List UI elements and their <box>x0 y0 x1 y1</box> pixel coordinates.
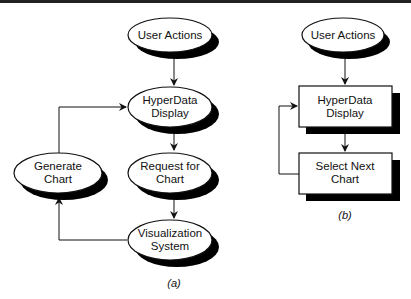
node-request-for-chart: Request for Chart <box>128 153 219 200</box>
node-user-actions: User Actions <box>302 18 390 59</box>
diagram-b: User Actions HyperData Display Select Ne… <box>279 18 400 221</box>
node-user-actions: User Actions <box>128 18 219 59</box>
flow-diagrams: User Actions HyperData Display Request f… <box>0 0 411 299</box>
node-label-line1: Request for <box>140 160 200 172</box>
edge-generate-to-hyperdata <box>59 107 126 153</box>
edge-select-to-hyperdata <box>279 106 299 174</box>
node-label-line1: Select Next <box>316 160 376 172</box>
node-label-line2: Chart <box>44 173 73 185</box>
node-label-line2: Display <box>326 107 364 119</box>
node-label-line2: System <box>151 240 189 252</box>
node-visualization-system: Visualization System <box>128 220 219 267</box>
caption-a: (a) <box>167 277 181 289</box>
node-label: User Actions <box>311 29 376 41</box>
caption-b: (b) <box>338 209 352 221</box>
node-label-line2: Chart <box>331 173 360 185</box>
node-label-line2: Display <box>151 107 189 119</box>
node-hyperdata-display: HyperData Display <box>299 86 400 134</box>
node-label: User Actions <box>138 29 203 41</box>
node-label-line1: HyperData <box>143 94 199 106</box>
node-label-line1: HyperData <box>318 94 374 106</box>
node-hyperdata-display: HyperData Display <box>128 87 219 134</box>
diagram-a: User Actions HyperData Display Request f… <box>14 18 219 289</box>
node-label-line1: Visualization <box>138 227 202 239</box>
node-select-next-chart: Select Next Chart <box>299 153 400 201</box>
node-label-line2: Chart <box>156 173 185 185</box>
node-generate-chart: Generate Chart <box>14 153 108 200</box>
node-label-line1: Generate <box>34 160 82 172</box>
edge-visualization-to-generate <box>59 198 127 240</box>
